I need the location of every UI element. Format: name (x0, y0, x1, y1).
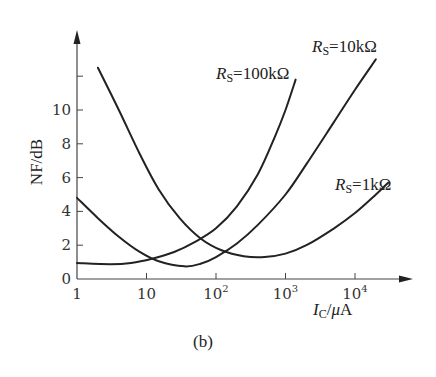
curve-rs-10k (77, 59, 376, 266)
y-tick-label: 4 (61, 202, 71, 220)
x-axis-label: IC/μA (312, 300, 353, 321)
x-tick-label: 102 (203, 283, 228, 303)
y-tick-label: 0 (61, 270, 71, 288)
label-rs-10k: RS=10kΩ (311, 37, 377, 58)
figure-caption: (b) (193, 332, 213, 351)
y-tick-label: 6 (61, 169, 71, 187)
y-tick-label: 2 (61, 236, 71, 254)
curve-rs-100k (77, 80, 296, 265)
y-axis-label: NF/dB (27, 139, 46, 185)
y-axis-arrow-icon (74, 30, 81, 44)
x-ticks: 110102103104 (72, 273, 368, 303)
label-rs-1k: RS=1kΩ (334, 175, 391, 196)
y-ticks: 0246810 (52, 76, 83, 288)
x-tick-label: 1 (72, 285, 82, 303)
x-tick-label: 103 (273, 283, 298, 303)
label-rs-100k: RS=100kΩ (215, 64, 289, 85)
curve-rs-1k (98, 68, 388, 257)
x-tick-label: 10 (137, 285, 156, 303)
curves (77, 59, 388, 266)
noise-figure-chart: 0246810 110102103104 NF/dB IC/μA (b) RS=… (0, 0, 436, 377)
y-tick-label: 8 (61, 135, 71, 153)
series-labels: RS=1kΩRS=10kΩRS=100kΩ (215, 37, 391, 196)
y-tick-label: 10 (52, 101, 71, 119)
x-axis-arrow-icon (399, 276, 413, 283)
